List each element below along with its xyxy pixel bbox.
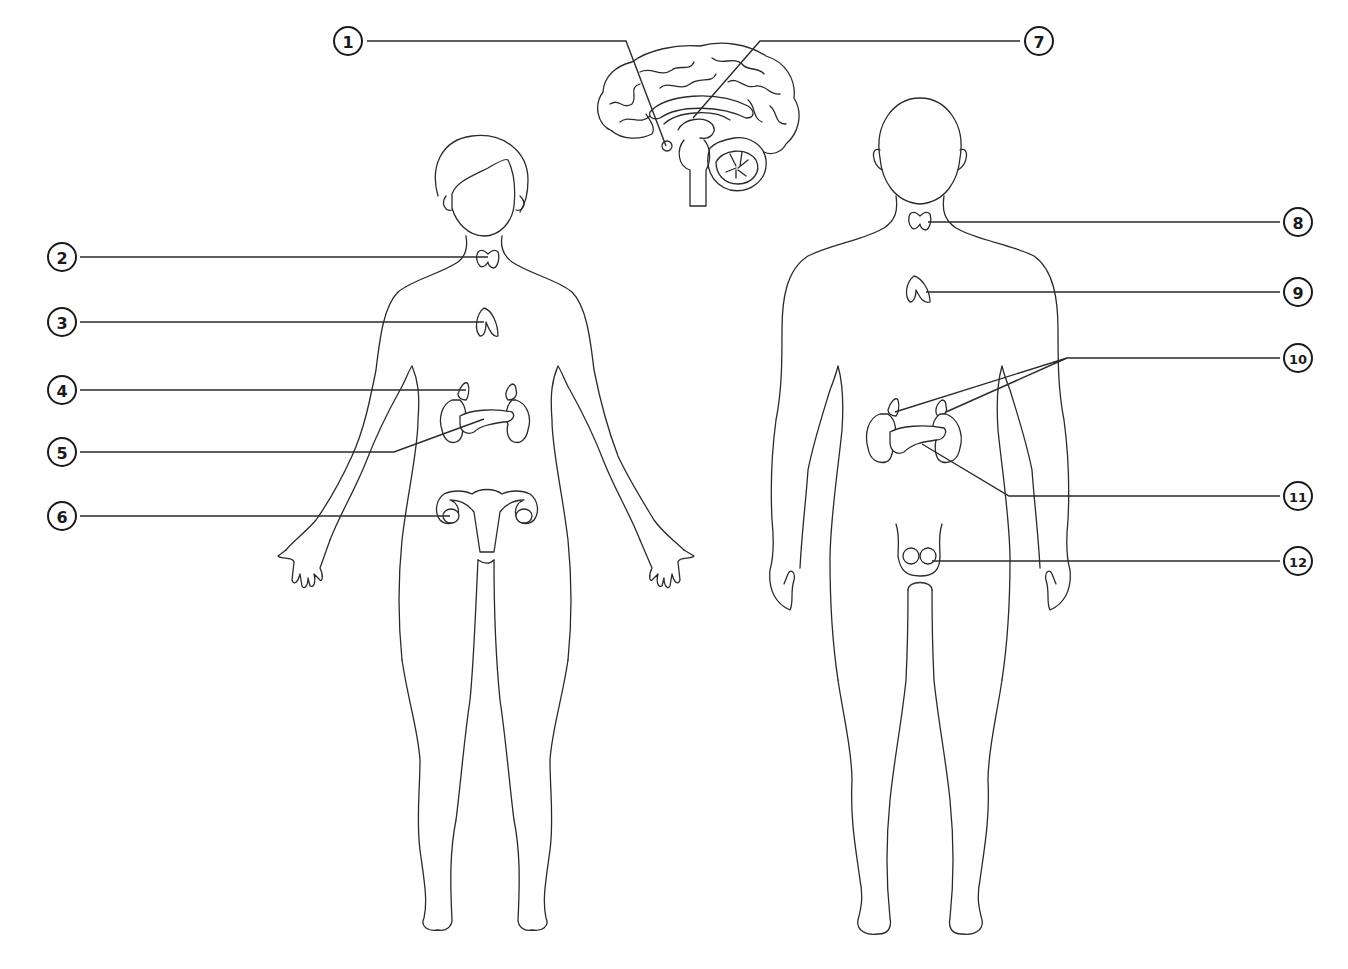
callout-12: 12: [932, 547, 1312, 575]
callout-6: 6: [48, 502, 450, 530]
pituitary-gland: [662, 141, 672, 151]
callout-number: 8: [1292, 214, 1303, 233]
callout-number: 7: [1033, 33, 1044, 52]
callout-number: 2: [56, 249, 67, 268]
callout-number: 12: [1289, 555, 1307, 570]
male-figure: [770, 98, 1071, 934]
adrenal-gland-male-left: [888, 399, 899, 416]
callout-10: 10: [895, 344, 1312, 412]
thyroid-gland-male: [909, 212, 931, 230]
brain-illustration: [598, 43, 799, 206]
callout-number: 4: [56, 382, 67, 401]
ovary-female-right: [516, 509, 532, 523]
adrenal-gland-female-left: [458, 383, 469, 400]
callout-number: 1: [342, 33, 353, 52]
leader-line: [693, 41, 1020, 118]
callout-number: 11: [1289, 490, 1307, 505]
thymus-gland-male: [907, 276, 930, 302]
callout-number: 9: [1292, 284, 1303, 303]
leader-line: [80, 419, 484, 452]
callout-7: 7: [693, 27, 1053, 118]
testis-left: [903, 548, 919, 564]
callout-3: 3: [48, 308, 484, 336]
leader-line: [367, 41, 666, 146]
callout-9: 9: [926, 278, 1312, 306]
callout-number: 6: [56, 508, 67, 527]
callout-2: 2: [48, 243, 488, 271]
callout-1: 1: [334, 27, 666, 146]
callouts-layer: 123456789101112: [48, 27, 1312, 575]
female-figure: [278, 135, 694, 930]
leader-line: [895, 358, 1280, 412]
callout-5: 5: [48, 419, 484, 466]
callout-number: 10: [1289, 352, 1307, 367]
callout-11: 11: [922, 444, 1312, 510]
endocrine-system-diagram: 123456789101112: [0, 0, 1348, 969]
leader-line: [922, 444, 1280, 496]
thyroid-gland-female: [477, 250, 499, 268]
adrenal-gland-female-right: [506, 384, 517, 400]
callout-number: 3: [56, 314, 67, 333]
callout-4: 4: [48, 376, 466, 404]
callout-number: 5: [56, 444, 67, 463]
pancreas-female: [460, 410, 514, 433]
callout-8: 8: [928, 208, 1312, 236]
